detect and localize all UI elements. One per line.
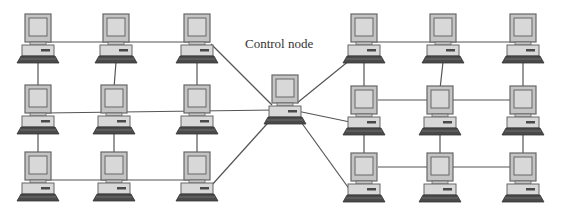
computer-node-icon <box>17 85 59 134</box>
computer-node-icon <box>502 14 544 63</box>
computer-node-icon <box>419 153 461 202</box>
computer-node-icon <box>93 152 135 201</box>
computer-node-icon <box>343 86 385 135</box>
computer-node-icon <box>419 86 461 135</box>
network-link <box>297 60 350 103</box>
computer-node-icon <box>93 85 135 134</box>
computer-node-icon <box>176 85 218 134</box>
computer-node-icon <box>95 14 137 63</box>
computer-node-icon <box>502 153 544 202</box>
computer-node-icon <box>343 14 385 63</box>
network-diagram <box>0 0 561 212</box>
control-node-label: Control node <box>245 36 313 52</box>
network-link <box>297 111 350 122</box>
computer-node-icon <box>176 152 218 201</box>
computer-node-icon <box>176 14 218 63</box>
network-link <box>211 115 275 186</box>
computer-node-icon <box>343 153 385 202</box>
network-link <box>45 110 275 113</box>
network-link <box>440 62 443 89</box>
network-link <box>211 44 272 105</box>
network-link <box>296 115 350 190</box>
computer-node-icon <box>17 14 59 63</box>
computer-node-icon <box>17 152 59 201</box>
computer-node-icon <box>422 14 464 63</box>
computer-node-icon <box>502 86 544 135</box>
control-node-computer-icon <box>264 75 306 124</box>
network-link <box>114 62 116 88</box>
